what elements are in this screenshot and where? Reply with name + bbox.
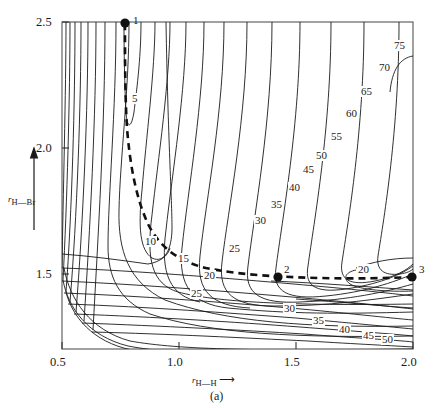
- contour-level-label: 70: [378, 62, 391, 73]
- point-3-label: 3: [419, 263, 425, 275]
- contour-level-label: 35: [270, 199, 283, 210]
- x-tick-2-0: 2.0: [401, 355, 417, 370]
- contour-level-label: 40: [288, 182, 301, 193]
- contour-level-label: 35: [312, 315, 325, 326]
- point-2-label: 2: [284, 263, 290, 275]
- contour-plot-canvas: [0, 0, 440, 408]
- point-1-label: 1: [133, 14, 139, 26]
- y-axis-title: rH—Br: [8, 192, 35, 207]
- x-tick-1-0: 1.0: [167, 355, 183, 370]
- contour-level-label: 50: [381, 334, 394, 345]
- y-axis-title-subscript: H—Br: [12, 197, 36, 207]
- x-axis-title: rH—H⟶: [192, 373, 235, 388]
- point-2-marker: [273, 272, 282, 281]
- contour-level-label: 5: [131, 93, 139, 104]
- contour-level-label: 65: [360, 86, 373, 97]
- figure-caption: (a): [210, 389, 223, 404]
- point-1-marker: [120, 18, 129, 27]
- contour-level-label: 30: [283, 303, 296, 314]
- contour-level-label: 50: [315, 150, 328, 161]
- contour-lines: [62, 22, 413, 356]
- contour-level-label: 20: [203, 270, 216, 281]
- contour-level-label: 10: [144, 236, 157, 247]
- contour-level-label: 15: [177, 253, 190, 264]
- y-tick-2-5: 2.5: [36, 15, 52, 30]
- contour-level-label: 45: [302, 164, 315, 175]
- x-axis-title-subscript: H—H: [196, 378, 217, 388]
- contour-level-label: 45: [362, 330, 375, 341]
- x-tick-1-5: 1.5: [284, 355, 300, 370]
- contour-level-label: 20: [357, 264, 370, 275]
- y-tick-1-5: 1.5: [36, 267, 52, 282]
- point-3-marker: [407, 272, 416, 281]
- y-axis-arrow: [31, 148, 38, 230]
- contour-level-label: 55: [330, 131, 343, 142]
- contour-level-label: 25: [190, 288, 203, 299]
- y-tick-2-0: 2.0: [36, 141, 52, 156]
- contour-level-label: 25: [228, 243, 241, 254]
- contour-level-label: 60: [345, 108, 358, 119]
- contour-plot-figure: 2.5 2.0 1.5 0.5 1.0 1.5 2.0 rH—Br rH—H⟶ …: [0, 0, 440, 408]
- contour-level-label: 30: [254, 215, 267, 226]
- contour-level-label: 75: [393, 40, 406, 51]
- x-axis-arrow-glyph: ⟶: [219, 373, 235, 385]
- contour-level-label: 40: [338, 324, 351, 335]
- x-tick-0-5: 0.5: [50, 355, 66, 370]
